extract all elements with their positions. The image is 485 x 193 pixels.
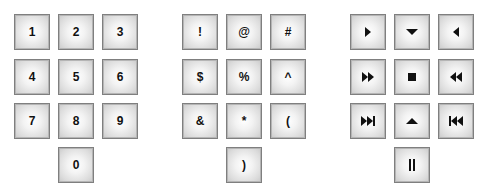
key-label: 5 bbox=[73, 71, 80, 83]
key-label: 8 bbox=[73, 115, 80, 127]
key-label: * bbox=[242, 115, 247, 127]
key-2[interactable]: 2 bbox=[58, 14, 94, 50]
play-right-icon bbox=[365, 27, 371, 37]
key-9[interactable]: 9 bbox=[102, 103, 138, 139]
key-0[interactable]: 0 bbox=[58, 147, 94, 183]
key-open-paren[interactable]: ( bbox=[270, 103, 306, 139]
fast-forward-button[interactable] bbox=[350, 59, 386, 95]
key-label: ( bbox=[286, 115, 290, 127]
key-label: 0 bbox=[73, 159, 80, 171]
play-button[interactable] bbox=[350, 14, 386, 50]
key-percent[interactable]: % bbox=[226, 59, 262, 95]
key-label: $ bbox=[197, 71, 204, 83]
digits-keypad: 1 2 3 4 5 6 7 8 9 0 bbox=[14, 14, 138, 184]
arrow-left-icon bbox=[453, 27, 459, 37]
key-label: ^ bbox=[284, 71, 291, 83]
key-6[interactable]: 6 bbox=[102, 59, 138, 95]
key-1[interactable]: 1 bbox=[14, 14, 50, 50]
key-close-paren[interactable]: ) bbox=[226, 147, 262, 183]
key-label: # bbox=[285, 26, 292, 38]
down-button[interactable] bbox=[394, 14, 430, 50]
rewind-button[interactable] bbox=[438, 59, 474, 95]
key-label: 4 bbox=[29, 71, 36, 83]
key-8[interactable]: 8 bbox=[58, 103, 94, 139]
skip-previous-button[interactable] bbox=[438, 103, 474, 139]
key-asterisk[interactable]: * bbox=[226, 103, 262, 139]
key-4[interactable]: 4 bbox=[14, 59, 50, 95]
fast-forward-icon bbox=[362, 72, 374, 82]
skip-previous-icon bbox=[449, 116, 463, 126]
skip-next-icon bbox=[361, 116, 375, 126]
key-label: ! bbox=[198, 26, 202, 38]
key-7[interactable]: 7 bbox=[14, 103, 50, 139]
key-exclamation[interactable]: ! bbox=[182, 14, 218, 50]
key-label: 1 bbox=[29, 26, 36, 38]
key-label: 7 bbox=[29, 115, 36, 127]
key-label: & bbox=[196, 115, 205, 127]
key-caret[interactable]: ^ bbox=[270, 59, 306, 95]
arrow-down-icon bbox=[406, 29, 418, 35]
key-5[interactable]: 5 bbox=[58, 59, 94, 95]
rewind-icon bbox=[450, 72, 462, 82]
key-label: 9 bbox=[117, 115, 124, 127]
key-label: 6 bbox=[117, 71, 124, 83]
key-ampersand[interactable]: & bbox=[182, 103, 218, 139]
key-3[interactable]: 3 bbox=[102, 14, 138, 50]
arrow-up-icon bbox=[406, 118, 418, 124]
pause-icon bbox=[409, 159, 415, 171]
key-label: 3 bbox=[117, 26, 124, 38]
key-label: 2 bbox=[73, 26, 80, 38]
back-button[interactable] bbox=[438, 14, 474, 50]
key-hash[interactable]: # bbox=[270, 14, 306, 50]
stop-button[interactable] bbox=[394, 59, 430, 95]
key-label: ) bbox=[242, 159, 246, 171]
pause-button[interactable] bbox=[394, 147, 430, 183]
key-at[interactable]: @ bbox=[226, 14, 262, 50]
skip-next-button[interactable] bbox=[350, 103, 386, 139]
key-dollar[interactable]: $ bbox=[182, 59, 218, 95]
stop-icon bbox=[408, 73, 416, 81]
key-label: @ bbox=[238, 26, 250, 38]
up-button[interactable] bbox=[394, 103, 430, 139]
media-keypad bbox=[350, 14, 474, 184]
key-label: % bbox=[239, 71, 250, 83]
symbols-keypad: ! @ # $ % ^ & * ( ) bbox=[182, 14, 306, 184]
